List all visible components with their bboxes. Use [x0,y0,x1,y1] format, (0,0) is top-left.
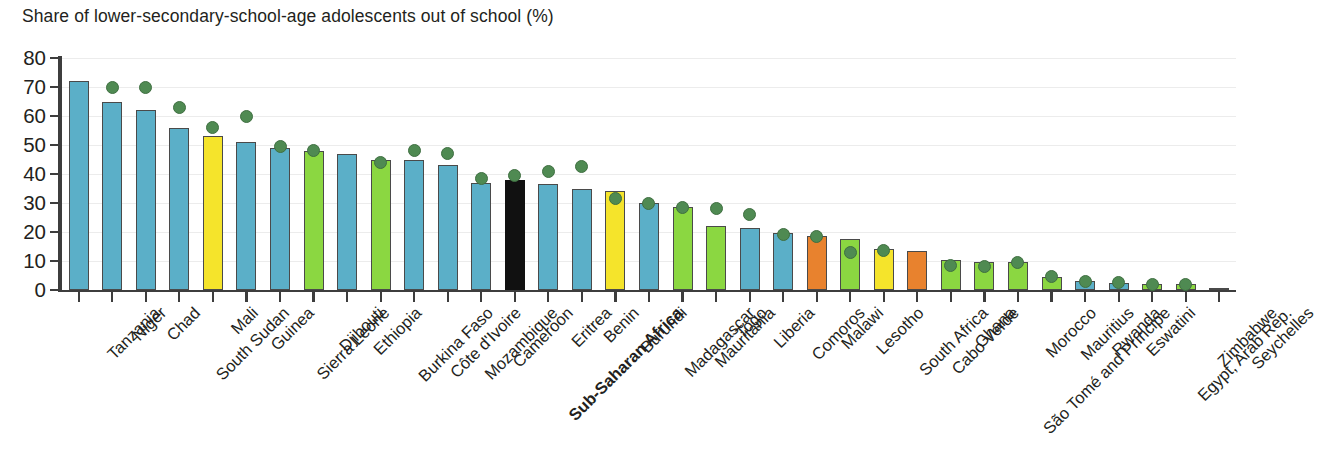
bar-group[interactable] [1202,58,1236,290]
x-axis-tick [916,291,918,302]
x-axis-category-label[interactable]: Niger [130,304,170,344]
bar[interactable] [438,165,458,290]
bar[interactable] [169,128,189,290]
marker-dot[interactable] [139,81,152,94]
marker-dot[interactable] [710,202,723,215]
marker-dot[interactable] [173,101,186,114]
x-axis-category-label[interactable]: Liberia [770,304,817,351]
bar[interactable] [337,154,357,290]
bar-group[interactable] [163,58,197,290]
bar-group[interactable] [1135,58,1169,290]
bar[interactable] [807,236,827,290]
bar[interactable] [639,203,659,290]
bar-group[interactable] [1102,58,1136,290]
marker-dot[interactable] [743,208,756,221]
bar-group[interactable] [565,58,599,290]
marker-dot[interactable] [642,197,655,210]
bar[interactable] [236,142,256,290]
bar-group[interactable] [129,58,163,290]
x-axis-tick [681,291,683,302]
bar-group[interactable] [96,58,130,290]
marker-dot[interactable] [575,160,588,173]
bar-group[interactable] [599,58,633,290]
chart-title: Share of lower-secondary-school-age adol… [22,6,554,27]
bar[interactable] [304,151,324,290]
bar-group[interactable] [297,58,331,290]
bar[interactable] [270,148,290,290]
marker-dot[interactable] [1079,275,1092,288]
marker-dot[interactable] [240,110,253,123]
bar-group[interactable] [263,58,297,290]
x-axis-category-label[interactable]: Chad [163,304,203,344]
bar-group[interactable] [431,58,465,290]
bar[interactable] [1209,288,1229,290]
bar-group[interactable] [1035,58,1069,290]
y-axis-tick [50,202,61,205]
bar[interactable] [907,251,927,290]
marker-dot[interactable] [475,172,488,185]
marker-dot[interactable] [408,144,421,157]
bar-group[interactable] [666,58,700,290]
bar[interactable] [404,160,424,291]
bar-group[interactable] [733,58,767,290]
marker-dot[interactable] [274,140,287,153]
bar-group[interactable] [766,58,800,290]
bar-group[interactable] [364,58,398,290]
bar-group[interactable] [833,58,867,290]
marker-dot[interactable] [106,81,119,94]
x-axis-category-label[interactable]: Egypt, Arab Rep. [1195,304,1295,404]
bar[interactable] [505,180,525,290]
bar-group[interactable] [901,58,935,290]
bar-group[interactable] [1068,58,1102,290]
marker-dot[interactable] [374,156,387,169]
plot-area [62,58,1236,290]
bar[interactable] [572,189,592,291]
x-axis-tick [950,291,952,302]
marker-dot[interactable] [609,192,622,205]
bar-group[interactable] [1001,58,1035,290]
bar[interactable] [538,184,558,290]
y-axis-tick-label: 60 [0,106,46,127]
bar-group[interactable] [867,58,901,290]
bar-group[interactable] [800,58,834,290]
bar[interactable] [69,81,89,290]
bar[interactable] [773,233,793,290]
bar-group[interactable] [1169,58,1203,290]
marker-dot[interactable] [1179,278,1192,291]
marker-dot[interactable] [542,165,555,178]
bar[interactable] [605,191,625,290]
marker-dot[interactable] [844,246,857,259]
marker-dot[interactable] [676,201,689,214]
bar-group[interactable] [968,58,1002,290]
bar-group[interactable] [498,58,532,290]
bar-group[interactable] [397,58,431,290]
y-axis-tick [50,173,61,176]
x-axis-tick [883,291,885,302]
bar-group[interactable] [934,58,968,290]
x-axis-tick [1218,291,1220,302]
bar[interactable] [136,110,156,290]
bar-group[interactable] [196,58,230,290]
marker-dot[interactable] [810,230,823,243]
marker-dot[interactable] [206,121,219,134]
x-axis-tick [245,291,247,302]
bar[interactable] [203,136,223,290]
bar-group[interactable] [532,58,566,290]
marker-dot[interactable] [1146,278,1159,291]
bar[interactable] [102,102,122,291]
marker-dot[interactable] [777,228,790,241]
marker-dot[interactable] [441,147,454,160]
bar-group[interactable] [465,58,499,290]
bar[interactable] [673,207,693,290]
bar-group[interactable] [632,58,666,290]
bar-group[interactable] [62,58,96,290]
bar-group[interactable] [230,58,264,290]
bar-group[interactable] [699,58,733,290]
bar[interactable] [371,160,391,291]
x-axis-tick [346,291,348,302]
bar[interactable] [471,183,491,290]
bar[interactable] [706,226,726,290]
bar[interactable] [740,228,760,290]
bar-group[interactable] [330,58,364,290]
